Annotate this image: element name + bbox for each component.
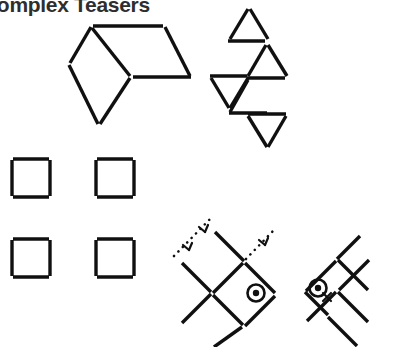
tick-arrow-mid (199, 225, 208, 232)
stick-t2-left (248, 45, 266, 76)
stick-lattice-8 (328, 317, 357, 346)
stick-t2-right (268, 45, 287, 76)
target-marker (248, 285, 265, 302)
stick-lattice-5 (338, 292, 368, 322)
stick-lattice-anchor (182, 263, 211, 292)
stick-lower-left-diagonal (69, 65, 98, 124)
stick-lattice-3 (337, 236, 360, 259)
stick-upper-right-diagonal (165, 27, 190, 76)
figure-four-squares (12, 159, 134, 277)
figure-hexagon-diamond (69, 26, 191, 124)
stick-lattice-4 (182, 294, 211, 323)
puzzle-page: Complex Teasers (0, 0, 397, 347)
stick-upper-left-diagonal (70, 27, 91, 63)
stick-t5-left (248, 116, 267, 147)
stick-t1-left (230, 9, 248, 39)
stick-t1-right (250, 9, 268, 39)
figure-lattice-plain (305, 236, 369, 346)
stick-t4-left (230, 80, 248, 112)
stick-center-diagonal (92, 28, 130, 76)
square-bottom-left (12, 239, 50, 277)
tick-arrow-left (183, 243, 192, 250)
stick-lattice-7 (214, 327, 242, 347)
stick-lattice-3 (215, 232, 244, 261)
stick-lower-right-diagonal (100, 78, 130, 124)
figure-triangle-zigzag (210, 9, 287, 147)
square-bottom-right (96, 239, 134, 277)
stick-lattice-1 (213, 263, 243, 293)
square-top-left (12, 159, 50, 197)
stick-t5-right (268, 116, 286, 147)
stick-lattice-5 (213, 295, 243, 325)
dotted-guide-right (246, 231, 273, 259)
matchstick-artwork (0, 0, 397, 347)
stick-t3-left (211, 78, 229, 108)
figure-lattice-dotted (174, 216, 275, 347)
square-top-right (96, 159, 134, 197)
dotted-guide-upper (174, 216, 213, 256)
